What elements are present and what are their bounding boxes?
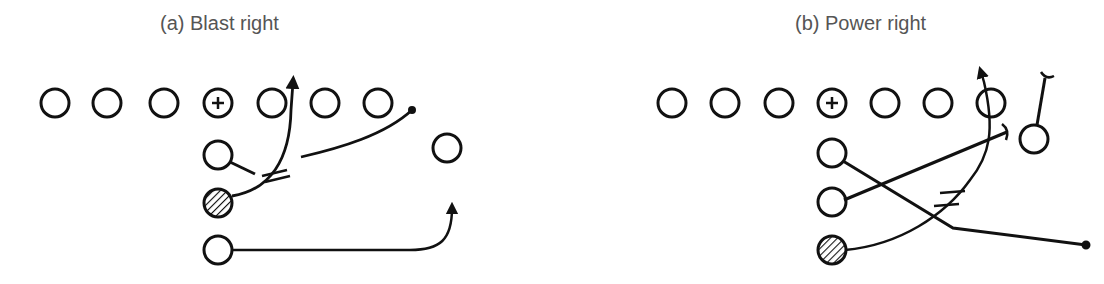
ball-carrier-route — [232, 82, 293, 196]
back-circle — [204, 236, 232, 264]
ball-carrier — [818, 236, 846, 264]
back-circle — [818, 188, 846, 216]
diagram-b — [658, 72, 1089, 264]
back-circle — [818, 139, 846, 167]
wide-receiver — [433, 134, 461, 162]
center-plus-icon — [212, 97, 224, 109]
wide-receiver — [1020, 125, 1048, 153]
ball-carrier-route — [845, 72, 990, 250]
ball-carrier — [204, 189, 232, 217]
center-plus-icon — [826, 97, 838, 109]
diagram-a — [41, 82, 461, 264]
play-diagrams — [0, 0, 1104, 284]
back-route — [232, 208, 452, 250]
back-circle — [204, 141, 232, 169]
